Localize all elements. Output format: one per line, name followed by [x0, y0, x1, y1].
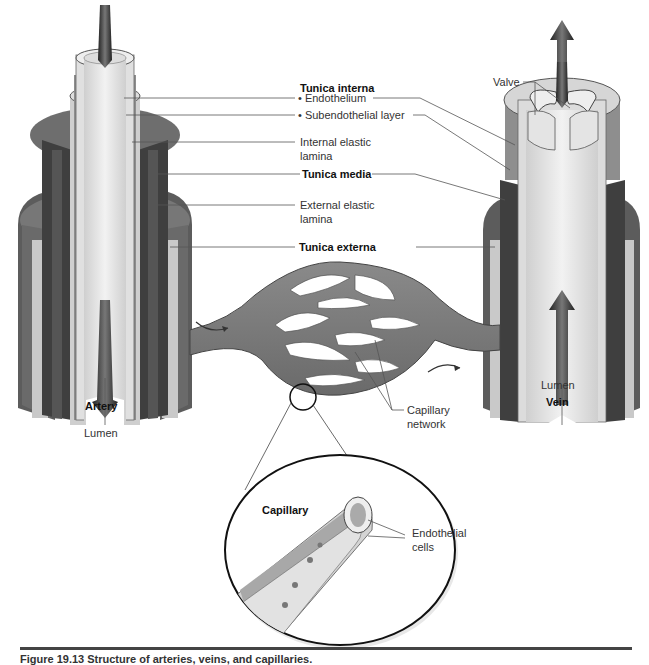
label-endothelial-cells-2: cells: [412, 541, 434, 554]
label-capillary: Capillary: [262, 504, 308, 517]
label-external-elastic-lamina-2: lamina: [300, 213, 332, 226]
label-external-elastic-lamina-1: External elastic: [300, 199, 375, 212]
label-endothelial-cells-1: Endothelial: [412, 527, 466, 540]
artery-illustration: [18, 5, 192, 425]
figure-caption: Figure 19.13 Structure of arteries, vein…: [20, 653, 312, 665]
capillary-detail-illustration: [225, 455, 458, 658]
label-capillary-network-1: Capillary: [407, 404, 450, 417]
label-internal-elastic-lamina-1: Internal elastic: [300, 136, 371, 149]
label-tunica-media: Tunica media: [302, 168, 371, 181]
label-artery-lumen: Lumen: [84, 427, 118, 440]
label-endothelium: • Endothelium: [298, 92, 366, 105]
label-internal-elastic-lamina-2: lamina: [300, 150, 332, 163]
label-tunica-externa: Tunica externa: [299, 241, 376, 254]
label-capillary-network-2: network: [407, 418, 446, 431]
label-subendothelial-layer: • Subendothelial layer: [298, 109, 405, 122]
label-vein: Vein: [546, 396, 569, 409]
label-artery: Artery: [85, 400, 117, 413]
caption-divider: [20, 647, 632, 650]
label-valve: Valve: [493, 76, 520, 89]
label-vein-lumen: Lumen: [541, 379, 575, 392]
